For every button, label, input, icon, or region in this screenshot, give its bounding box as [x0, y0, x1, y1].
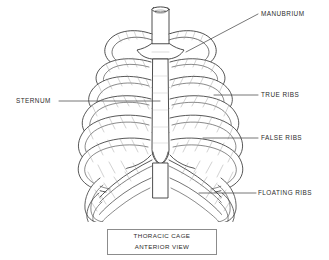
- caption-line-2: ANTERIOR VIEW: [135, 242, 190, 253]
- rib-cage-body: [78, 7, 243, 227]
- label-sternum: STERNUM: [16, 98, 51, 104]
- rib-cage-illustration: [0, 0, 329, 260]
- label-floating-ribs: FLOATING RIBS: [258, 190, 312, 196]
- manubrium: [137, 44, 184, 59]
- label-false-ribs: FALSE RIBS: [261, 135, 302, 141]
- label-true-ribs: TRUE RIBS: [261, 92, 299, 98]
- thoracic-cage-figure: MANUBRIUM TRUE RIBS FALSE RIBS FLOATING …: [0, 0, 329, 260]
- sternum: [152, 59, 169, 198]
- ribs-left-side: [78, 58, 152, 227]
- caption-line-1: THORACIC CAGE: [134, 231, 191, 242]
- ribs-right-side: [169, 58, 243, 227]
- caption-box: THORACIC CAGE ANTERIOR VIEW: [107, 229, 217, 255]
- label-manubrium: MANUBRIUM: [261, 11, 304, 17]
